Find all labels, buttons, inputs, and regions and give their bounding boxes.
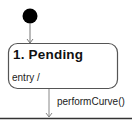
transition-label: performCurve() <box>57 96 125 107</box>
initial-state-node[interactable] <box>23 9 38 24</box>
state-title: 1. Pending <box>13 47 83 62</box>
state-entry-action: entry / <box>12 72 40 83</box>
